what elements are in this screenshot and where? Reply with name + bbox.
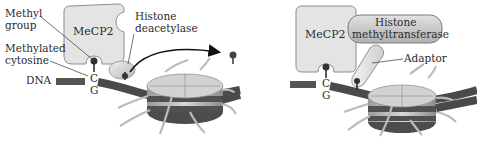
methylated-cytosine-label-2: cytosine [5,54,49,66]
methyl-on-histone-icon [354,78,360,84]
nucleosome-left [118,58,238,134]
removal-arrow [130,50,218,73]
dna-stub-left [56,78,85,85]
diagram-stage: MeCP2 C G Methyl group Methylated cytosi… [0,0,477,141]
dna-stub-right [290,81,316,88]
methyl-group-label-1: Methyl [5,7,43,19]
histone-methyltransferase-label-1: Histone [375,16,416,28]
methyl-group-icon-right [323,64,330,71]
dna-label: DNA [26,74,52,86]
base-g-left: G [90,84,98,96]
methylated-cytosine-label-1: Methylated [5,42,66,54]
adaptor-label: Adaptor [403,52,448,64]
right-panel: MeCP2 C G Histone methyltransferase Adap… [290,6,477,136]
acetyl-group-icon [122,73,128,79]
mecp2-chromatin-diagram: MeCP2 C G Methyl group Methylated cytosi… [0,0,477,141]
histone-deacetylase-label-1: Histone [135,10,176,22]
mecp2-label-right: MeCP2 [305,28,346,41]
methyl-group-label-2: group [5,19,37,31]
left-panel: MeCP2 C G Methyl group Methylated cytosi… [5,4,240,134]
mecp2-label-left: MeCP2 [73,25,114,38]
histone-deacetylase-label-2: deacetylase [135,22,198,34]
released-acetyl-icon [230,52,237,59]
base-c-right: C [322,77,330,89]
histone-methyltransferase-label-2: methyltransferase [352,28,449,40]
base-c-left: C [90,72,98,84]
base-g-right: G [322,89,330,101]
